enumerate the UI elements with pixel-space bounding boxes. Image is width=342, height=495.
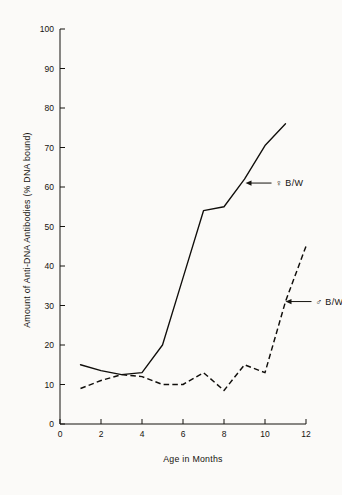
series-line-female bbox=[81, 124, 286, 375]
y-tick-label: 0 bbox=[49, 419, 54, 429]
x-tick-label: 10 bbox=[260, 429, 270, 439]
x-tick-label: 6 bbox=[181, 429, 186, 439]
x-axis-tick-labels: 024681012 bbox=[58, 429, 311, 439]
y-tick-label: 10 bbox=[45, 380, 55, 390]
y-axis-ticks bbox=[60, 29, 65, 424]
x-tick-label: 12 bbox=[301, 429, 311, 439]
y-axis-tick-labels: 0102030405060708090100 bbox=[40, 24, 54, 429]
series-label: ♂ B/W bbox=[316, 297, 342, 307]
series-line-male bbox=[81, 246, 307, 390]
x-tick-label: 0 bbox=[58, 429, 63, 439]
y-tick-label: 60 bbox=[45, 182, 55, 192]
series-annotations: ♀ B/W♂ B/W bbox=[246, 178, 342, 307]
y-tick-label: 100 bbox=[40, 24, 54, 34]
series-label: ♀ B/W bbox=[276, 178, 304, 188]
y-tick-label: 20 bbox=[45, 340, 55, 350]
x-tick-label: 4 bbox=[140, 429, 145, 439]
annotation-female: ♀ B/W bbox=[246, 178, 304, 188]
y-tick-label: 90 bbox=[45, 64, 55, 74]
x-axis-title: Age in Months bbox=[163, 454, 223, 464]
y-axis-title: Amount of Anti-DNA Antibodies (% DNA bou… bbox=[22, 132, 32, 328]
x-tick-label: 2 bbox=[99, 429, 104, 439]
y-tick-label: 70 bbox=[45, 143, 55, 153]
data-series-group bbox=[81, 124, 307, 391]
line-chart: 0102030405060708090100 024681012 ♀ B/W♂ … bbox=[0, 0, 342, 495]
y-tick-label: 30 bbox=[45, 301, 55, 311]
y-tick-label: 40 bbox=[45, 261, 55, 271]
x-tick-label: 8 bbox=[222, 429, 227, 439]
figure-container: 0102030405060708090100 024681012 ♀ B/W♂ … bbox=[0, 0, 342, 495]
annotation-male: ♂ B/W bbox=[286, 297, 342, 307]
arrow-head-icon bbox=[246, 180, 252, 185]
y-tick-label: 50 bbox=[45, 222, 55, 232]
x-axis-ticks bbox=[60, 419, 306, 424]
y-tick-label: 80 bbox=[45, 103, 55, 113]
